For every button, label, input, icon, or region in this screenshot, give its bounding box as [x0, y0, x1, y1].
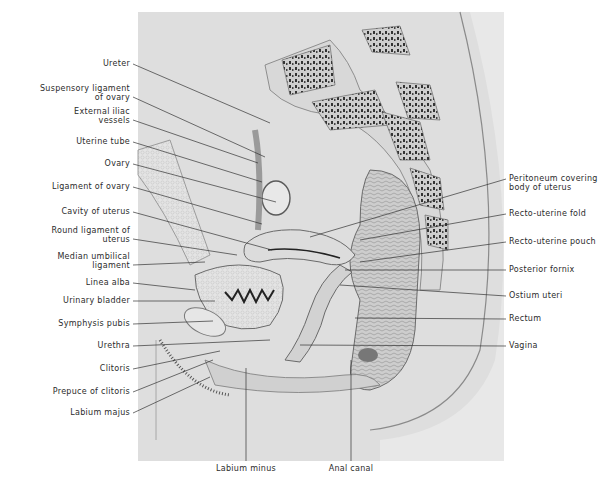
label-recto-uterine-pouch: Recto-uterine pouch	[509, 237, 596, 247]
label-line: Ureter	[103, 59, 130, 69]
label-urinary-bladder: Urinary bladder	[63, 296, 130, 306]
label-external-iliac-vessels: External iliacvessels	[74, 107, 130, 126]
label-line: Urinary bladder	[63, 296, 130, 306]
label-urethra: Urethra	[98, 341, 130, 351]
label-line: uterus	[51, 235, 130, 245]
label-line: Recto-uterine fold	[509, 209, 586, 219]
label-round-ligament-of-uterus: Round ligament ofuterus	[51, 226, 130, 245]
label-line: Labium majus	[70, 408, 130, 418]
rectum-lumen	[358, 348, 378, 362]
label-line: Anal canal	[311, 464, 391, 474]
label-symphysis-pubis: Symphysis pubis	[58, 319, 130, 329]
label-recto-uterine-fold: Recto-uterine fold	[509, 209, 586, 219]
label-line: Uterine tube	[76, 137, 130, 147]
label-line: Ostium uteri	[509, 291, 562, 301]
label-peritoneum-covering-body-of-uterus: Peritoneum coveringbody of uterus	[509, 174, 598, 193]
label-uterine-tube: Uterine tube	[76, 137, 130, 147]
label-line: vessels	[74, 116, 130, 126]
label-line: Symphysis pubis	[58, 319, 130, 329]
label-line: Vagina	[509, 341, 538, 351]
label-line: Urethra	[98, 341, 130, 351]
label-ovary: Ovary	[105, 159, 130, 169]
label-line: External iliac	[74, 107, 130, 117]
label-line: body of uterus	[509, 183, 598, 193]
ovary	[262, 181, 290, 215]
label-cavity-of-uterus: Cavity of uterus	[61, 207, 130, 217]
label-line: Round ligament of	[51, 226, 130, 236]
label-line: Suspensory ligament	[40, 84, 130, 94]
label-line: Rectum	[509, 314, 541, 324]
label-suspensory-ligament-of-ovary: Suspensory ligamentof ovary	[40, 84, 130, 103]
label-ureter: Ureter	[103, 59, 130, 69]
label-ostium-uteri: Ostium uteri	[509, 291, 562, 301]
label-line: Ligament of ovary	[52, 182, 130, 192]
label-median-umbilical-ligament: Median umbilicalligament	[57, 252, 130, 271]
label-anal-canal: Anal canal	[311, 464, 391, 474]
label-linea-alba: Linea alba	[86, 278, 130, 288]
label-line: Prepuce of clitoris	[53, 387, 130, 397]
label-labium-minus: Labium minus	[206, 464, 286, 474]
label-line: Peritoneum covering	[509, 174, 598, 184]
label-line: Labium minus	[206, 464, 286, 474]
label-line: Median umbilical	[57, 252, 130, 262]
label-line: of ovary	[40, 93, 130, 103]
label-line: Linea alba	[86, 278, 130, 288]
label-line: Ovary	[105, 159, 130, 169]
label-labium-majus: Labium majus	[70, 408, 130, 418]
label-vagina: Vagina	[509, 341, 538, 351]
label-line: ligament	[57, 261, 130, 271]
label-line: Posterior fornix	[509, 265, 575, 275]
label-line: Cavity of uterus	[61, 207, 130, 217]
label-rectum: Rectum	[509, 314, 541, 324]
label-line: Recto-uterine pouch	[509, 237, 596, 247]
label-posterior-fornix: Posterior fornix	[509, 265, 575, 275]
label-prepuce-of-clitoris: Prepuce of clitoris	[53, 387, 130, 397]
label-line: Clitoris	[100, 364, 130, 374]
label-clitoris: Clitoris	[100, 364, 130, 374]
label-ligament-of-ovary: Ligament of ovary	[52, 182, 130, 192]
